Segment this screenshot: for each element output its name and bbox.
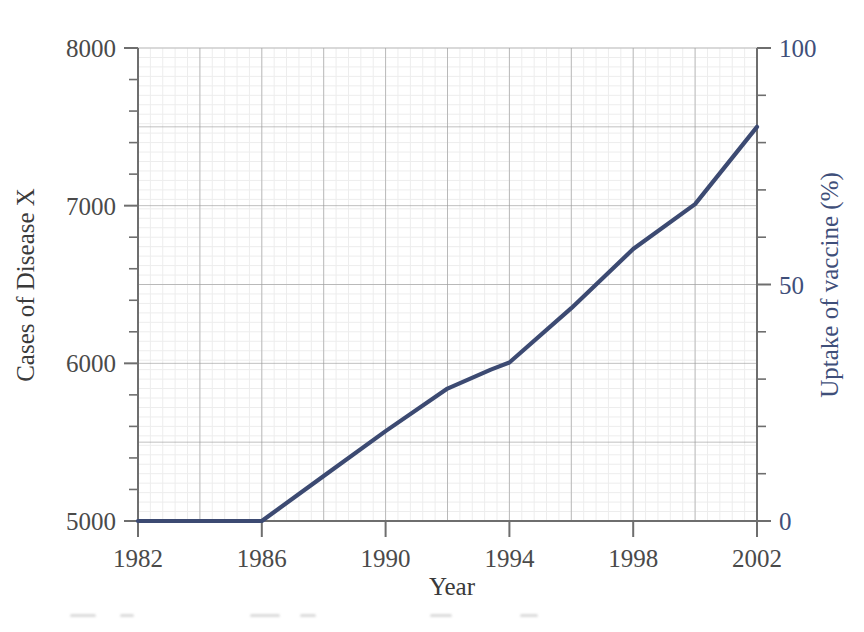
dual-axis-line-chart: 198219861990199419982002 500060007000800… [0, 0, 864, 632]
x-axis-title: Year [429, 573, 476, 600]
y-tick-label-right: 0 [779, 508, 792, 535]
y-tick-label-right: 50 [779, 272, 804, 299]
x-tick-label: 1986 [237, 545, 287, 572]
y-tick-label-left: 6000 [66, 350, 116, 377]
y-axis-title-right: Uptake of vaccine (%) [816, 172, 844, 398]
x-tick-label: 1990 [361, 545, 411, 572]
x-tick-label: 1994 [484, 545, 535, 572]
x-tick-label: 1982 [113, 545, 163, 572]
y-tick-label-left: 7000 [66, 193, 116, 220]
y-tick-label-left: 8000 [66, 35, 116, 62]
y-tick-label-right: 100 [779, 35, 817, 62]
x-tick-label: 1998 [608, 545, 658, 572]
chart-canvas: 198219861990199419982002 500060007000800… [0, 0, 864, 632]
x-tick-label: 2002 [732, 545, 782, 572]
y-axis-title-left: Cases of Disease X [12, 188, 39, 382]
y-tick-label-left: 5000 [66, 508, 116, 535]
